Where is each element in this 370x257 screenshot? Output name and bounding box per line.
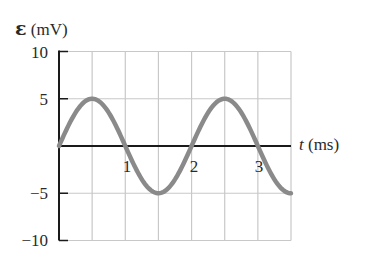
x-axis-unit: (ms) [308, 135, 339, 154]
emf-symbol: ε [15, 17, 27, 39]
y-tick-neg5: −5 [16, 185, 48, 202]
x-tick-3: 3 [252, 158, 266, 175]
x-tick-1: 1 [120, 158, 134, 175]
x-axis-label: t (ms) [299, 136, 339, 153]
y-tick-10: 10 [16, 44, 48, 61]
y-axis-unit: (mV) [31, 20, 68, 39]
time-symbol: t [299, 135, 304, 154]
y-tick-5: 5 [16, 91, 48, 108]
y-tick-neg10: −10 [16, 232, 48, 249]
x-tick-2: 2 [187, 158, 201, 175]
y-axis-label: ε (mV) [15, 19, 68, 38]
